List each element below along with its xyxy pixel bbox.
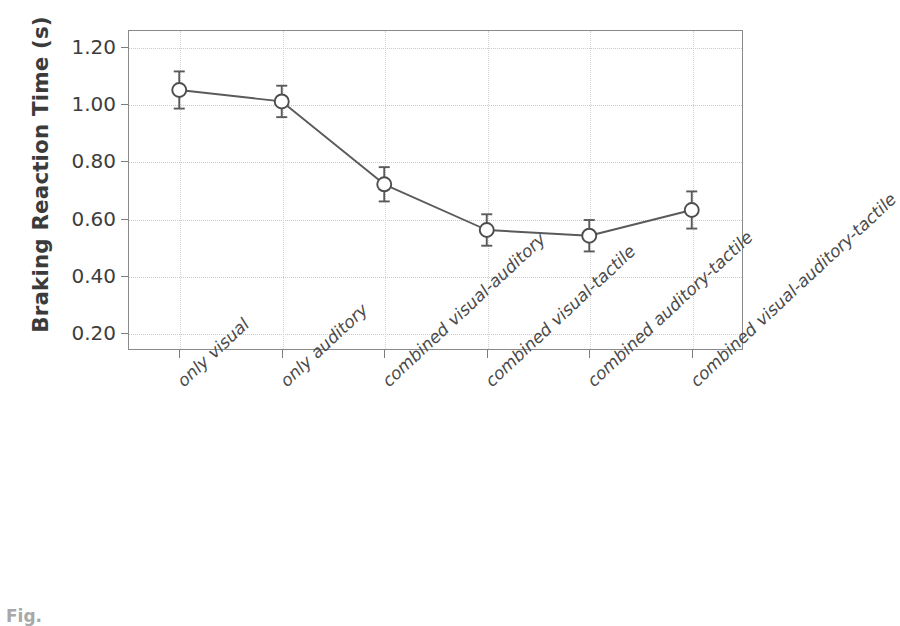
y-axis-tick-label: 0.40	[46, 264, 116, 288]
x-axis-tick-mark	[384, 350, 385, 358]
x-axis-tick-mark	[487, 350, 488, 358]
y-axis-tick-label: 0.20	[46, 321, 116, 345]
y-axis-tick-mark	[121, 47, 128, 48]
gridline-horizontal	[129, 105, 742, 106]
figure-caption-stub: Fig.	[6, 606, 42, 626]
x-axis-tick-mark	[282, 350, 283, 358]
gridline-horizontal	[129, 277, 742, 278]
x-axis-tick-mark	[179, 350, 180, 358]
x-axis-tick-mark	[692, 350, 693, 358]
gridline-vertical	[693, 31, 694, 349]
y-axis-tick-label: 0.80	[46, 149, 116, 173]
y-axis-tick-mark	[121, 276, 128, 277]
y-axis-tick-mark	[121, 333, 128, 334]
gridline-horizontal	[129, 162, 742, 163]
y-axis-tick-mark	[121, 219, 128, 220]
gridline-vertical	[488, 31, 489, 349]
gridline-vertical	[180, 31, 181, 349]
gridline-horizontal	[129, 48, 742, 49]
y-axis-tick-label: 1.20	[46, 35, 116, 59]
gridline-vertical	[385, 31, 386, 349]
y-axis-tick-label: 0.60	[46, 207, 116, 231]
gridline-horizontal	[129, 220, 742, 221]
y-axis-tick-mark	[121, 161, 128, 162]
x-axis-tick-mark	[589, 350, 590, 358]
y-axis-tick-label: 1.00	[46, 92, 116, 116]
plot-area	[128, 30, 743, 350]
gridline-vertical	[283, 31, 284, 349]
y-axis-tick-mark	[121, 104, 128, 105]
